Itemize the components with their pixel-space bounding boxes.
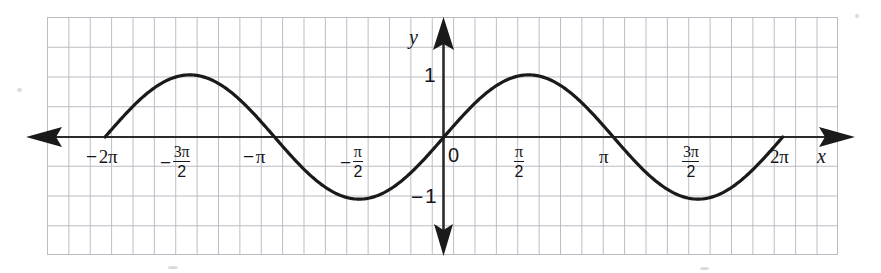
x-tick-label-2pi: 2π [770,147,789,166]
y-tick-label-neg-one: −1 [411,185,436,208]
x-tick-label-neg-2pi: −2π [86,147,117,167]
x-axis-label: x [817,146,826,166]
origin-label: 0 [448,145,459,165]
minus-sign: − [160,153,171,172]
x-tick-label-neg-3pi-2: −3π2 [160,145,190,182]
fraction: 3π2 [173,144,190,181]
y-tick-label-one: 1 [424,64,435,85]
fraction-numerator: π [353,144,363,162]
fraction-denominator: 2 [514,162,524,181]
tick-text: π [256,146,265,167]
tick-text: 1 [425,184,436,207]
minus-sign: − [243,147,254,166]
x-tick-label-neg-pi-2: −π2 [340,145,363,182]
fraction-denominator: 2 [682,162,699,181]
y-axis-label: y [409,27,418,47]
tick-text: 2π [99,146,118,167]
fraction-denominator: 2 [353,162,363,181]
x-tick-label-neg-pi: −π [243,147,265,167]
fraction: 3π2 [682,144,699,181]
minus-sign: − [340,153,351,172]
x-tick-label-pi-2: π2 [514,145,524,182]
tick-text: 2π [770,146,789,167]
fraction: π2 [514,144,524,181]
fraction: π2 [353,144,363,181]
fraction-numerator: π [514,144,524,162]
fraction-denominator: 2 [173,162,190,181]
minus-sign: − [411,186,423,207]
tick-text: π [599,146,608,167]
sine-graph-figure: −2π −3π2 −π −π2 0 π2 π 3π2 2π 1 −1 y x [0,0,881,273]
minus-sign: − [86,147,97,166]
x-tick-label-pi: π [599,147,608,166]
plot-canvas-true [0,0,881,273]
x-tick-label-3pi-2: 3π2 [682,145,699,182]
fraction-numerator: 3π [682,144,699,162]
fraction-numerator: 3π [173,144,190,162]
